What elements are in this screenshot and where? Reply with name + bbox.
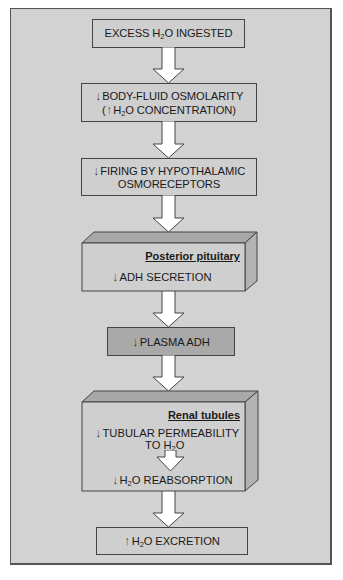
region-label: Posterior pituitary [145, 250, 240, 262]
flow-arrow-icon [150, 195, 188, 233]
decrease-arrow-icon: ↓ [113, 472, 118, 487]
decrease-arrow-icon: ↓ [133, 335, 137, 348]
node-posterior-pituitary: Posterior pituitary ↓ADH SECRETION [82, 243, 245, 291]
flow-arrow-icon [150, 291, 188, 328]
node-osmoreceptors: ↓FIRING BY HYPOTHALAMIC OSMORECEPTORS [81, 158, 257, 196]
increase-arrow-icon: ↑ [125, 534, 129, 547]
node-text: EXCESS H2O INGESTED [105, 27, 233, 40]
increase-arrow-icon: ↑ [107, 103, 111, 116]
node-excess-water: EXCESS H2O INGESTED [92, 19, 245, 48]
flow-arrow-icon [150, 355, 188, 392]
node-water-excretion: ↑H2O EXCRETION [96, 527, 248, 555]
decrease-arrow-icon: ↓ [94, 164, 98, 177]
inner-flow-arrow-icon [156, 450, 186, 473]
node-renal-tubules: Renal tubules ↓TUBULAR PERMEABILITY TO H… [82, 402, 245, 491]
flow-arrow-icon [150, 47, 188, 84]
decrease-arrow-icon: ↓ [113, 269, 118, 284]
region-label: Renal tubules [168, 409, 240, 421]
flow-arrow-icon [150, 121, 188, 159]
flow-arrow-icon [150, 491, 188, 528]
node-plasma-adh: ↓PLASMA ADH [107, 327, 235, 356]
decrease-arrow-icon: ↓ [96, 425, 101, 440]
decrease-arrow-icon: ↓ [96, 89, 100, 102]
node-osmolarity: ↓BODY-FLUID OSMOLARITY (↑H2O CONCENTRATI… [81, 83, 257, 122]
